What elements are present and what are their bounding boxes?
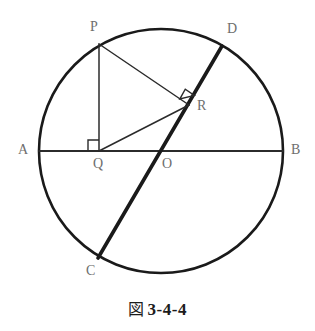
vertex-label-c: C <box>86 264 95 278</box>
vertex-label-r: R <box>197 99 206 113</box>
vertex-label-d: D <box>227 22 237 36</box>
geometry-canvas <box>0 0 315 331</box>
segment-pr-line <box>99 44 189 105</box>
vertex-label-b: B <box>291 143 300 157</box>
geometry-figure: A B C D O P Q R 図3-4-4 <box>0 0 315 331</box>
figure-caption-symbol: 図 <box>128 300 145 319</box>
vertex-label-o: O <box>162 157 172 171</box>
figure-caption-number: 3-4-4 <box>148 300 187 319</box>
vertex-label-q: Q <box>93 157 103 171</box>
vertex-label-a: A <box>18 143 28 157</box>
vertex-label-p: P <box>90 20 98 34</box>
right-angle-at-q-mark <box>88 140 99 151</box>
figure-caption: 図3-4-4 <box>0 296 315 320</box>
